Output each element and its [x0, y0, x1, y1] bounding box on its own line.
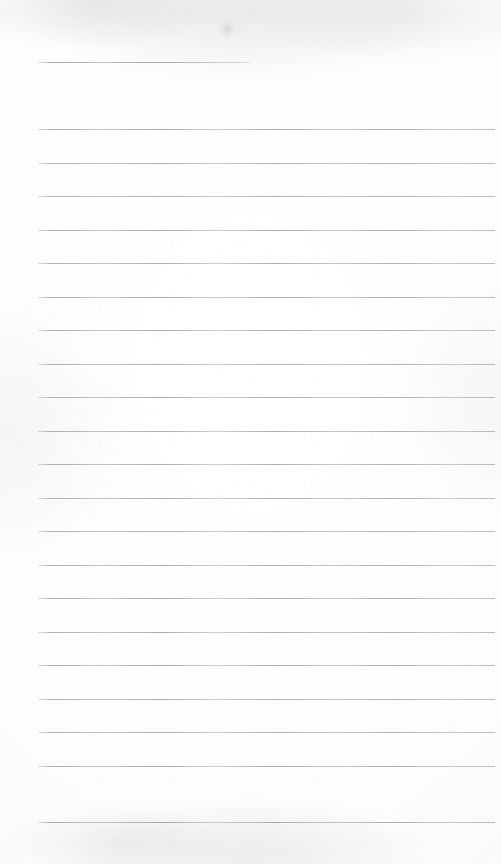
scanned-page	[0, 0, 501, 864]
writing-area[interactable]	[38, 48, 495, 838]
